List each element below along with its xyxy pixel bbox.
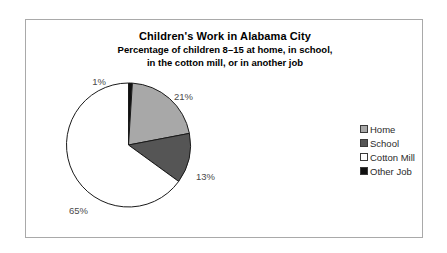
pie-slices bbox=[66, 83, 190, 207]
legend-swatch-icon bbox=[360, 167, 368, 175]
pie-chart-figure: Children's Work in Alabama City Percenta… bbox=[0, 0, 447, 253]
legend-item[interactable]: School bbox=[360, 136, 420, 150]
chart-subtitle-line-1: Percentage of children 8–15 at home, in … bbox=[26, 44, 424, 57]
legend-item[interactable]: Cotton Mill bbox=[360, 150, 420, 164]
slice-label-other-job: 1% bbox=[92, 76, 106, 87]
chart-legend: HomeSchoolCotton MillOther Job bbox=[360, 122, 420, 178]
legend-item-label: Home bbox=[370, 124, 395, 135]
legend-item-label: School bbox=[370, 138, 399, 149]
legend-swatch-icon bbox=[360, 139, 368, 147]
slice-label-cotton-mill: 65% bbox=[69, 205, 89, 216]
title-block: Children's Work in Alabama City Percenta… bbox=[26, 29, 424, 69]
chart-frame: Children's Work in Alabama City Percenta… bbox=[25, 19, 423, 238]
pie-svg: 1% 21% 13% 65% bbox=[66, 75, 291, 235]
legend-item-label: Other Job bbox=[370, 166, 412, 177]
chart-title: Children's Work in Alabama City bbox=[26, 29, 424, 43]
chart-subtitle-line-2: in the cotton mill, or in another job bbox=[26, 57, 424, 70]
legend-item[interactable]: Home bbox=[360, 122, 420, 136]
legend-item[interactable]: Other Job bbox=[360, 164, 420, 178]
chart-subtitle: Percentage of children 8–15 at home, in … bbox=[26, 44, 424, 69]
legend-item-label: Cotton Mill bbox=[370, 152, 415, 163]
pie-plot-area: 1% 21% 13% 65% bbox=[66, 75, 291, 235]
slice-label-home: 21% bbox=[174, 91, 194, 102]
legend-swatch-icon bbox=[360, 153, 368, 161]
legend-swatch-icon bbox=[360, 125, 368, 133]
slice-label-school: 13% bbox=[196, 171, 216, 182]
